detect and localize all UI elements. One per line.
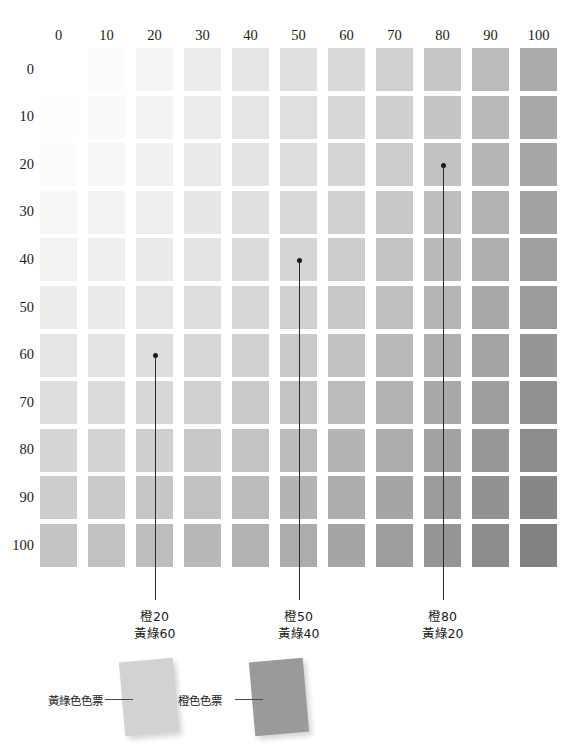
column-header-50: 50 <box>279 27 319 44</box>
color-cell <box>232 429 269 472</box>
color-cell <box>472 286 509 329</box>
color-cell <box>88 334 125 377</box>
color-cell <box>328 96 365 139</box>
column-header-90: 90 <box>471 27 511 44</box>
callout-orange-value: 橙80 <box>363 608 523 625</box>
color-cell <box>328 334 365 377</box>
yellow-green-swatch-label: 黃綠色色票 <box>48 692 103 708</box>
color-cell <box>520 191 557 234</box>
orange-swatch-card <box>249 658 309 736</box>
color-cell <box>472 476 509 519</box>
color-cell <box>88 286 125 329</box>
color-cell <box>88 476 125 519</box>
column-header-30: 30 <box>183 27 223 44</box>
color-cell <box>328 48 365 91</box>
callout-point <box>153 353 158 358</box>
color-cell <box>184 476 221 519</box>
color-cell <box>184 286 221 329</box>
color-cell <box>280 48 317 91</box>
color-cell <box>520 96 557 139</box>
color-cell <box>88 238 125 281</box>
color-cell <box>472 381 509 424</box>
color-cell <box>40 143 77 186</box>
color-cell <box>376 476 413 519</box>
color-cell <box>520 334 557 377</box>
color-cell <box>232 476 269 519</box>
color-cell <box>424 48 461 91</box>
callout-point <box>297 258 302 263</box>
orange-swatch-label: 橙色色票 <box>178 692 222 708</box>
color-cell <box>472 238 509 281</box>
callout-point <box>441 163 446 168</box>
color-mixing-chart-page: 0102030405060708090100 01020304050607080… <box>0 0 580 751</box>
callout-1-label: 橙20黃綠60 <box>75 608 235 642</box>
color-cell <box>472 191 509 234</box>
row-header-30: 30 <box>0 203 34 220</box>
color-cell <box>520 524 557 567</box>
color-cell <box>136 96 173 139</box>
color-cell <box>232 143 269 186</box>
color-cell <box>184 238 221 281</box>
row-header-60: 60 <box>0 346 34 363</box>
yellow-green-swatch-card <box>119 658 179 736</box>
row-header-0: 0 <box>0 61 34 78</box>
row-header-90: 90 <box>0 489 34 506</box>
color-cell <box>280 143 317 186</box>
color-cell <box>40 286 77 329</box>
color-cell <box>328 381 365 424</box>
color-cell <box>472 48 509 91</box>
color-cell <box>328 429 365 472</box>
color-cell <box>88 191 125 234</box>
color-cell <box>328 286 365 329</box>
color-cell <box>88 96 125 139</box>
color-cell <box>40 334 77 377</box>
color-cell <box>88 143 125 186</box>
color-cell <box>232 48 269 91</box>
color-cell <box>520 48 557 91</box>
row-header-20: 20 <box>0 156 34 173</box>
color-cell <box>40 381 77 424</box>
color-cell <box>40 191 77 234</box>
color-cell <box>136 143 173 186</box>
color-cell <box>376 381 413 424</box>
color-cell <box>184 48 221 91</box>
color-cell <box>520 143 557 186</box>
color-cell <box>520 429 557 472</box>
callout-leader-line <box>155 355 156 600</box>
color-cell <box>232 96 269 139</box>
color-cell <box>184 524 221 567</box>
callout-3-label: 橙80黃綠20 <box>363 608 523 642</box>
row-header-70: 70 <box>0 394 34 411</box>
color-cell <box>472 429 509 472</box>
color-cell <box>328 476 365 519</box>
color-cell <box>280 96 317 139</box>
color-cell <box>40 524 77 567</box>
column-header-0: 0 <box>39 27 79 44</box>
color-cell <box>376 143 413 186</box>
row-header-100: 100 <box>0 537 34 554</box>
color-cell <box>376 191 413 234</box>
callout-yellow-green-value: 黃綠40 <box>219 625 379 642</box>
color-cell <box>40 48 77 91</box>
color-cell <box>88 381 125 424</box>
color-cell <box>328 524 365 567</box>
color-cell <box>280 191 317 234</box>
color-cell <box>232 191 269 234</box>
color-cell <box>232 334 269 377</box>
callout-leader-line <box>299 260 300 600</box>
color-cell <box>184 381 221 424</box>
callout-orange-value: 橙20 <box>75 608 235 625</box>
color-cell <box>472 524 509 567</box>
color-cell <box>40 476 77 519</box>
callout-yellow-green-value: 黃綠20 <box>363 625 523 642</box>
color-cell <box>376 429 413 472</box>
color-cell <box>184 96 221 139</box>
color-cell <box>184 143 221 186</box>
color-cell <box>520 476 557 519</box>
color-grid <box>40 48 568 572</box>
column-header-100: 100 <box>519 27 559 44</box>
color-cell <box>376 96 413 139</box>
column-header-70: 70 <box>375 27 415 44</box>
column-header-80: 80 <box>423 27 463 44</box>
color-cell <box>232 524 269 567</box>
